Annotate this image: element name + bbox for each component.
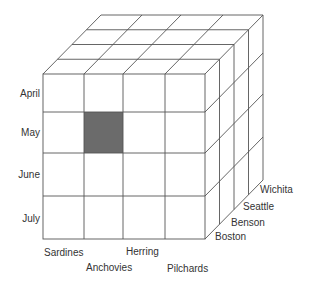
column-label-sardines: Sardines xyxy=(44,247,83,259)
depth-label-benson: Benson xyxy=(231,217,265,229)
row-label-june: June xyxy=(0,169,40,181)
column-label-anchovies: Anchovies xyxy=(86,262,132,274)
depth-label-boston: Boston xyxy=(215,231,246,243)
row-label-may: May xyxy=(0,127,40,139)
column-label-pilchards: Pilchards xyxy=(167,263,208,275)
row-label-july: July xyxy=(0,213,40,225)
column-label-herring: Herring xyxy=(126,246,159,258)
depth-label-seattle: Seattle xyxy=(243,201,274,213)
depth-label-wichita: Wichita xyxy=(260,184,293,196)
data-cube xyxy=(0,0,309,285)
row-label-april: April xyxy=(0,88,40,100)
highlight-cell xyxy=(84,112,123,153)
